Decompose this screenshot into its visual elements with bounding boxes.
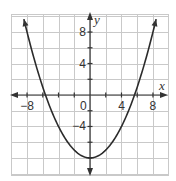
x-tick-label: 8 (150, 99, 157, 113)
y-tick-label: 4 (79, 57, 86, 71)
x-axis-label: x (158, 78, 165, 93)
x-tick-label: −8 (20, 99, 34, 113)
origin-label: 0 (80, 99, 87, 113)
x-tick-label: 4 (118, 99, 125, 113)
y-axis-label: y (92, 12, 100, 27)
y-tick-label: 8 (79, 25, 86, 39)
y-tick-label: −4 (72, 119, 86, 133)
parabola-chart: x y 0 −84884−4 (0, 0, 176, 181)
